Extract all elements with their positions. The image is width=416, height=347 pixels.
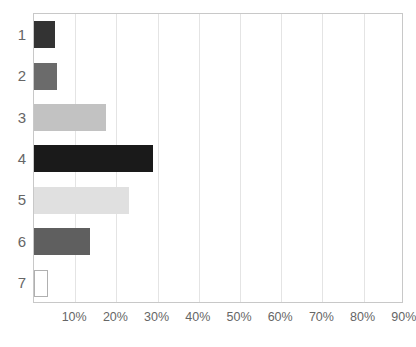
bar-row [34,180,403,221]
x-tick-label-30pct: 30% [144,310,169,324]
bar-row [34,55,403,96]
bar-5 [34,187,129,214]
bar-row [34,97,403,138]
bar-1 [34,21,55,48]
category-label-4: 4 [0,151,26,166]
bar-row [34,14,403,55]
bar-row [34,263,403,303]
bar-3 [34,104,106,131]
category-label-5: 5 [0,192,26,207]
bar-2 [34,63,57,90]
x-tick-label-50pct: 50% [226,310,251,324]
x-tick-label-20pct: 20% [103,310,128,324]
chart-title-clipped [0,0,416,9]
bar-7 [34,270,48,297]
plot-area [33,13,403,303]
bar-6 [34,228,90,255]
x-tick-label-80pct: 80% [350,310,375,324]
category-label-1: 1 [0,27,26,42]
bar-row [34,221,403,262]
category-label-7: 7 [0,275,26,290]
bar-row [34,138,403,179]
x-tick-label-60pct: 60% [268,310,293,324]
x-tick-label-40pct: 40% [185,310,210,324]
x-tick-label-10pct: 10% [62,310,87,324]
bar-chart: 1234567 10%20%30%40%50%60%70%80%90% [0,0,416,347]
category-label-2: 2 [0,68,26,83]
x-tick-label-90pct: 90% [391,310,416,324]
x-tick-label-70pct: 70% [309,310,334,324]
bar-4 [34,145,153,172]
category-label-3: 3 [0,110,26,125]
category-label-6: 6 [0,234,26,249]
